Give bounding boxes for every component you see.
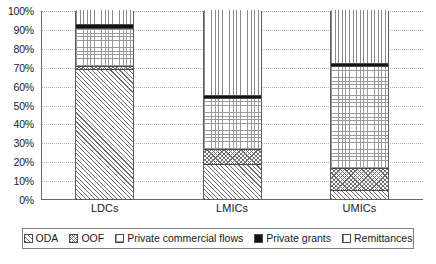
legend-swatch-icon	[254, 234, 263, 243]
x-axis-labels: LDCsLMICsUMICs	[41, 202, 423, 222]
y-tick-label: 40%	[14, 118, 34, 130]
bar-segment[interactable]	[331, 64, 388, 67]
x-tick-label-ldcs: LDCs	[91, 202, 119, 214]
legend-label: Private commercial flows	[127, 233, 243, 244]
y-tick-label: 30%	[14, 137, 34, 149]
stacked-bar[interactable]	[203, 11, 262, 200]
y-tick-label: 90%	[14, 24, 34, 36]
stacked-bar[interactable]	[75, 11, 134, 200]
x-tick-label-lmics: LMICs	[216, 202, 248, 214]
y-tick-label: 60%	[14, 81, 34, 93]
legend-label: ODA	[36, 233, 59, 244]
bar-segment[interactable]	[76, 70, 133, 199]
y-tick-label: 20%	[14, 156, 34, 168]
bar-segment[interactable]	[331, 191, 388, 199]
legend-item[interactable]: OOF	[69, 233, 104, 244]
legend-label: OOF	[81, 233, 104, 244]
chart-legend: ODAOOFPrivate commercial flowsPrivate gr…	[22, 228, 414, 249]
legend-item[interactable]: Private commercial flows	[115, 233, 243, 244]
legend-swatch-icon	[342, 234, 351, 243]
stacked-bar-chart: 0%10%20%30%40%50%60%70%80%90%100% LDCsLM…	[0, 0, 436, 264]
bar-group-umics[interactable]	[330, 11, 389, 200]
bar-segment[interactable]	[204, 165, 261, 199]
bar-segment[interactable]	[331, 67, 388, 169]
legend-item[interactable]: ODA	[24, 233, 59, 244]
bar-segment[interactable]	[76, 29, 133, 67]
y-tick-label: 10%	[14, 175, 34, 187]
bar-segment[interactable]	[204, 99, 261, 150]
legend-swatch-icon	[24, 234, 33, 243]
legend-item[interactable]: Private grants	[254, 233, 331, 244]
bar-segment[interactable]	[204, 96, 261, 99]
y-axis-labels: 0%10%20%30%40%50%60%70%80%90%100%	[0, 11, 38, 200]
bar-segment[interactable]	[76, 67, 133, 71]
y-tick-label: 70%	[14, 62, 34, 74]
legend-item[interactable]: Remittances	[342, 233, 412, 244]
y-tick-label: 0%	[19, 194, 34, 206]
bar-segment[interactable]	[204, 10, 261, 96]
bar-segment[interactable]	[331, 169, 388, 192]
stacked-bar[interactable]	[330, 11, 389, 200]
bar-group-ldcs[interactable]	[75, 11, 134, 200]
legend-label: Private grants	[266, 233, 331, 244]
legend-swatch-icon	[69, 234, 78, 243]
bar-group-lmics[interactable]	[203, 11, 262, 200]
bar-segment[interactable]	[76, 10, 133, 25]
bar-segment[interactable]	[204, 150, 261, 165]
legend-swatch-icon	[115, 234, 124, 243]
x-tick-label-umics: UMICs	[343, 202, 377, 214]
legend-label: Remittances	[354, 233, 412, 244]
y-tick-label: 80%	[14, 43, 34, 55]
bar-segment[interactable]	[76, 25, 133, 29]
y-tick-label: 50%	[14, 100, 34, 112]
bar-segment[interactable]	[331, 10, 388, 64]
bars-layer	[41, 11, 423, 200]
y-tick-label: 100%	[8, 5, 34, 17]
